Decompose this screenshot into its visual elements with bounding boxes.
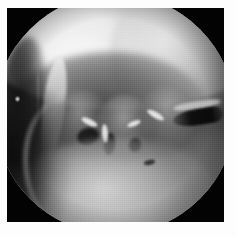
endoscopic-photograph: [7, 8, 224, 222]
scratch-artifact: [37, 66, 39, 122]
figure-root: [0, 0, 236, 237]
caption-zone: [0, 222, 236, 237]
endoscope-aperture: [7, 8, 224, 222]
bright-speck-artifact: [15, 96, 20, 102]
